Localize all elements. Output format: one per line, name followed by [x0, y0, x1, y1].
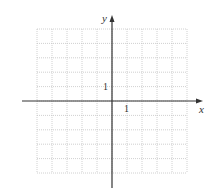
y-tick-label: 1	[103, 81, 108, 92]
x-axis-label: x	[198, 103, 204, 115]
y-axis-label: y	[101, 12, 107, 24]
y-axis-arrow-icon	[110, 15, 115, 22]
coordinate-plane: y x 1 1	[0, 0, 212, 193]
x-tick-label: 1	[124, 103, 129, 114]
